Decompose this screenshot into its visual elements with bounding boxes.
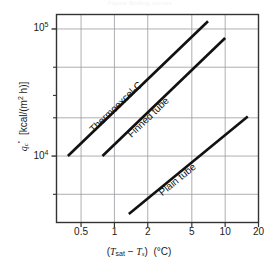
x-axis-title: (Tsat − Ts) (°C) [0,246,278,258]
y-axis-double-prime: ″ [17,141,24,143]
y-tick-exponent: 5 [45,21,49,28]
x-tick-label: 5 [177,226,207,237]
x-axis-sub-sat: sat [116,250,125,257]
y-axis-title: qc″ [kcal/(m2 h)] [15,32,32,202]
x-axis-units: (°C) [148,246,171,257]
y-tick-mantissa: 10 [33,150,44,161]
x-axis-minus: − [125,246,136,257]
y-tick-mantissa: 10 [33,22,44,33]
x-tick-label: 0.5 [66,226,96,237]
figure-container: Figure Boiling curves qc″ [kcal/(m2 h)] … [0,0,278,272]
y-tick-exponent: 4 [45,149,49,156]
x-tick-label: 1 [99,226,129,237]
y-axis-units-open: [kcal/(m [18,100,29,135]
x-tick-label: 20 [244,226,274,237]
y-tick-label: 105 [15,21,49,33]
y-axis-units-close: h)] [18,82,29,96]
x-tick-label: 10 [210,226,240,237]
axis-ticks [52,29,259,227]
y-axis-sub-c: c [22,143,30,146]
y-tick-label: 104 [15,149,49,161]
x-tick-label: 2 [133,226,163,237]
y-axis-units-exponent: 2 [17,96,24,100]
